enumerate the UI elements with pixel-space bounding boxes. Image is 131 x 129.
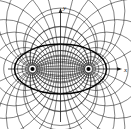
left-focus: [30, 67, 34, 71]
figure-canvas: x y: [0, 0, 131, 129]
right-focus: [86, 67, 90, 71]
bipolar-coordinates-figure: x y: [0, 0, 131, 129]
